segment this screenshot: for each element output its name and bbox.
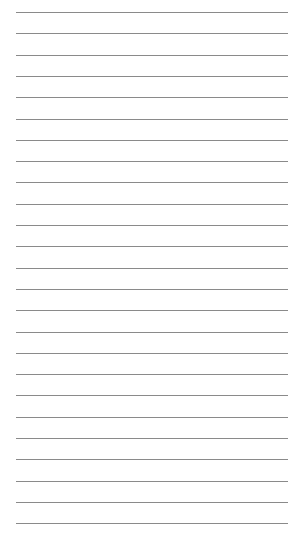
ruled-line	[16, 246, 288, 247]
ruled-line	[16, 502, 288, 503]
lined-paper	[0, 0, 298, 538]
ruled-line	[16, 332, 288, 333]
ruled-line	[16, 374, 288, 375]
ruled-line	[16, 417, 288, 418]
ruled-line	[16, 310, 288, 311]
ruled-line	[16, 395, 288, 396]
ruled-line	[16, 523, 288, 524]
ruled-line	[16, 140, 288, 141]
ruled-line	[16, 119, 288, 120]
ruled-line	[16, 289, 288, 290]
ruled-line	[16, 12, 288, 13]
ruled-line	[16, 481, 288, 482]
ruled-line	[16, 161, 288, 162]
ruled-line	[16, 459, 288, 460]
ruled-line	[16, 204, 288, 205]
ruled-line	[16, 76, 288, 77]
ruled-line	[16, 33, 288, 34]
ruled-line	[16, 55, 288, 56]
ruled-line	[16, 438, 288, 439]
ruled-line	[16, 182, 288, 183]
ruled-line	[16, 353, 288, 354]
ruled-line	[16, 225, 288, 226]
ruled-line	[16, 268, 288, 269]
ruled-line	[16, 97, 288, 98]
